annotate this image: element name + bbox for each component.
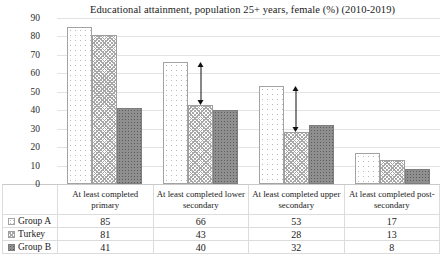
y-tick-label: 10: [10, 161, 40, 171]
legend-cell-turkey: Turkey: [3, 228, 58, 241]
legend-label-group-a: Group A: [18, 216, 51, 226]
table-header-at-least-completed-primary: At least completed primary: [58, 185, 154, 215]
value-cell-group-a-at-least-completed-post-secondary: 17: [345, 215, 441, 228]
arrow-head-bottom: [197, 100, 203, 105]
bar-group-at-least-completed-primary: [57, 18, 153, 184]
value-cell-group-b-at-least-completed-lower-secondary: 40: [154, 241, 250, 254]
bar-group-a-at-least-completed-lower-secondary: [163, 62, 188, 184]
y-tick-label: 40: [10, 105, 40, 115]
value-cell-group-b-at-least-completed-post-secondary: 8: [345, 241, 441, 254]
value-cell-group-a-at-least-completed-lower-secondary: 66: [154, 215, 250, 228]
legend-swatch-group-b: [8, 244, 15, 251]
data-table: At least completed primaryAt least compl…: [2, 184, 440, 254]
chart: Educational attainment, population 25+ y…: [0, 0, 445, 271]
arrow-head-bottom: [293, 127, 299, 132]
y-tick-label: 70: [10, 50, 40, 60]
arrow-head-top: [293, 86, 299, 91]
y-tick-label: 90: [10, 13, 40, 23]
gap-double-arrow: [292, 86, 301, 132]
legend-swatch-group-a: [8, 218, 15, 225]
value-cell-group-a-at-least-completed-primary: 85: [58, 215, 154, 228]
gap-double-arrow: [196, 62, 205, 104]
value-cell-turkey-at-least-completed-post-secondary: 13: [345, 228, 441, 241]
legend-label-group-b: Group B: [18, 242, 51, 252]
y-tick-label: 30: [10, 124, 40, 134]
y-tick-label: 0: [10, 179, 40, 189]
bar-group-a-at-least-completed-upper-secondary: [259, 86, 284, 184]
table-header-at-least-completed-post-secondary: At least completed post-secondary: [345, 185, 441, 215]
y-axis: 0102030405060708090: [0, 18, 48, 184]
chart-title: Educational attainment, population 25+ y…: [46, 4, 439, 15]
y-tick-label: 80: [10, 31, 40, 41]
arrow-head-top: [197, 62, 203, 67]
legend-label-turkey: Turkey: [18, 229, 45, 239]
table-corner-cell: [3, 185, 58, 215]
legend-cell-group-b: Group B: [3, 241, 58, 254]
bar-turkey-at-least-completed-post-secondary: [380, 160, 405, 184]
value-cell-group-b-at-least-completed-primary: 41: [58, 241, 154, 254]
bar-group-b-at-least-completed-lower-secondary: [213, 110, 238, 184]
y-tick-label: 50: [10, 87, 40, 97]
value-cell-turkey-at-least-completed-lower-secondary: 43: [154, 228, 250, 241]
y-tick-label: 20: [10, 142, 40, 152]
legend-cell-group-a: Group A: [3, 215, 58, 228]
bar-group-b-at-least-completed-primary: [117, 108, 142, 184]
legend-swatch-turkey: [8, 231, 15, 238]
value-cell-turkey-at-least-completed-upper-secondary: 28: [249, 228, 345, 241]
bar-group-at-least-completed-lower-secondary: [153, 18, 249, 184]
value-cell-turkey-at-least-completed-primary: 81: [58, 228, 154, 241]
chart-body: 0102030405060708090: [0, 18, 440, 184]
plot-area: [57, 18, 440, 184]
value-cell-group-b-at-least-completed-upper-secondary: 32: [249, 241, 345, 254]
table-header-at-least-completed-upper-secondary: At least completed upper secondary: [249, 185, 345, 215]
bar-turkey-at-least-completed-lower-secondary: [188, 105, 213, 184]
value-cell-group-a-at-least-completed-upper-secondary: 53: [249, 215, 345, 228]
bar-group-a-at-least-completed-post-secondary: [355, 153, 380, 184]
bar-group-a-at-least-completed-primary: [67, 27, 92, 184]
table-header-at-least-completed-lower-secondary: At least completed lower secondary: [154, 185, 250, 215]
y-tick-label: 60: [10, 68, 40, 78]
bar-group-b-at-least-completed-upper-secondary: [309, 125, 334, 184]
bar-turkey-at-least-completed-upper-secondary: [284, 132, 309, 184]
arrow-line: [296, 89, 297, 129]
arrow-line: [200, 65, 201, 101]
bar-group-at-least-completed-upper-secondary: [249, 18, 345, 184]
bar-turkey-at-least-completed-primary: [92, 35, 117, 184]
bar-group-at-least-completed-post-secondary: [344, 18, 440, 184]
bar-group-b-at-least-completed-post-secondary: [405, 169, 430, 184]
